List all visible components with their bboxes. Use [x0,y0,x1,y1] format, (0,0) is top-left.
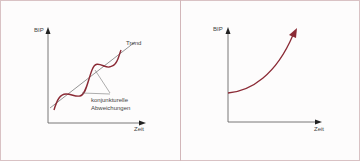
y-axis-arrow-icon [226,27,231,34]
annotation-label-line1: konjunkturelle [91,97,128,104]
left-diagram-panel: BIP Trend konjunkturelle Abweichungen Ze… [0,0,180,159]
x-axis-arrow-icon [139,121,146,126]
y-axis-label: BIP [34,27,44,34]
x-axis-label: Zeit [314,126,324,133]
growth-arrow-icon [289,28,297,38]
growth-diagram [181,0,359,159]
annotation-pointer-2 [82,93,110,94]
trend-label: Trend [126,40,141,47]
y-axis-label: BIP [213,26,223,33]
growth-curve [228,35,293,93]
right-diagram-panel: BIP Zeit [181,0,359,159]
annotation-pointer-1 [95,70,110,93]
annotation-label-line2: Abweichungen [91,105,130,112]
x-axis-label: Zeit [134,126,144,133]
x-axis-arrow-icon [315,120,322,125]
business-cycle-diagram [0,0,180,159]
y-axis-arrow-icon [46,27,51,34]
